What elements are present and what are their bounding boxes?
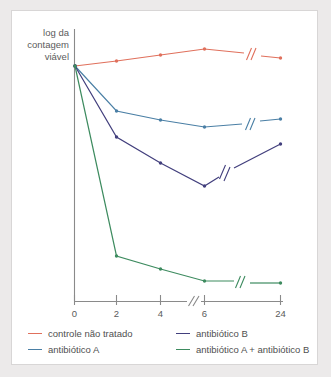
legend-label: antibiótico A — [48, 344, 99, 355]
data-point — [159, 118, 162, 121]
data-point — [203, 279, 206, 282]
y-axis-label-line-3: viável — [45, 51, 69, 62]
data-point — [203, 184, 206, 187]
legend-swatch-icon — [28, 349, 42, 350]
chart-legend: controle não tratado antibiótico B antib… — [12, 323, 319, 365]
series-break-antibiotico-b — [220, 165, 231, 181]
data-point — [279, 142, 282, 145]
series-line-antibiotico-a-tail — [260, 119, 281, 121]
line-chart-svg: 0 2 4 6 24 log da contagem viável — [12, 11, 319, 323]
data-point — [73, 64, 76, 67]
x-tick-label-24: 24 — [275, 308, 286, 319]
data-point — [115, 254, 118, 257]
data-point — [159, 161, 162, 164]
legend-item-controle-nao-tratado: controle não tratado — [28, 328, 176, 339]
legend-item-antibiotico-a: antibiótico A — [28, 344, 176, 355]
data-point — [115, 59, 118, 62]
data-point — [279, 56, 282, 59]
x-axis — [75, 296, 284, 306]
data-point — [115, 109, 118, 112]
legend-swatch-icon — [28, 333, 42, 334]
legend-item-antibiotico-b: antibiótico B — [176, 328, 319, 339]
data-point — [203, 125, 206, 128]
chart-plot-area: 0 2 4 6 24 log da contagem viável — [12, 11, 319, 323]
data-point — [279, 117, 282, 120]
x-tick-label-4: 4 — [158, 308, 163, 319]
y-axis-label-line-1: log da — [43, 27, 70, 38]
data-point — [115, 135, 118, 138]
x-tick-label-2: 2 — [114, 308, 119, 319]
data-point — [203, 47, 206, 50]
legend-swatch-icon — [176, 333, 190, 334]
series-line-antibiotico-a — [75, 66, 242, 127]
series-break-antibiotico-a — [246, 118, 256, 130]
x-axis-tick-labels: 0 2 4 6 24 — [72, 308, 286, 319]
series-controle-nao-tratado — [73, 47, 282, 67]
series-antibiotico-a — [73, 64, 282, 130]
legend-item-antibiotico-a-mais-b: antibiótico A + antibiótico B — [176, 344, 319, 355]
series-break-controle — [247, 48, 257, 60]
data-point — [159, 53, 162, 56]
data-point — [159, 267, 162, 270]
x-tick-label-6: 6 — [202, 308, 207, 319]
x-axis-ticks — [75, 295, 281, 305]
series-line-controle — [75, 49, 244, 66]
series-antibiotico-b — [73, 64, 282, 187]
y-axis-label-line-2: contagem — [27, 39, 69, 50]
y-axis-label: log da contagem viável — [27, 27, 69, 62]
series-line-controle-tail — [261, 56, 281, 58]
legend-label: controle não tratado — [48, 328, 133, 339]
x-axis-break-mark — [189, 296, 200, 306]
legend-swatch-icon — [176, 349, 190, 350]
series-line-antibiotico-b-tail — [234, 144, 281, 168]
x-tick-label-0: 0 — [72, 308, 77, 319]
series-line-antibiotico-a-mais-b — [75, 66, 234, 281]
data-point — [279, 281, 282, 284]
legend-label: antibiótico B — [196, 328, 248, 339]
legend-label: antibiótico A + antibiótico B — [196, 344, 309, 355]
figure-frame: 0 2 4 6 24 log da contagem viável — [11, 10, 318, 365]
series-break-antibiotico-a-mais-b — [236, 276, 246, 288]
